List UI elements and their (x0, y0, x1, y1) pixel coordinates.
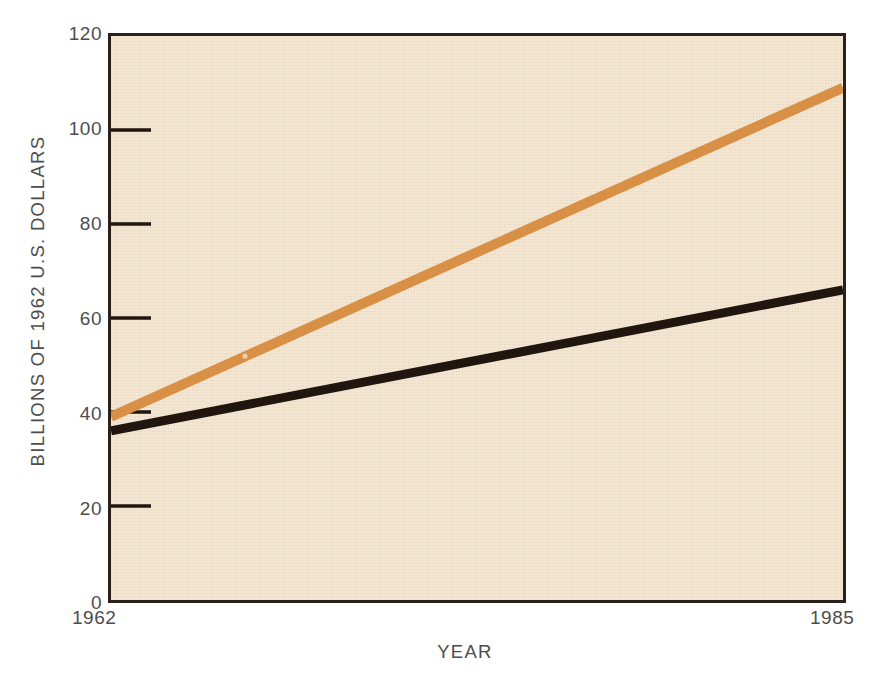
x-tick-label-start: 1962 (72, 608, 116, 627)
plot-canvas (111, 36, 843, 600)
image-speck-artifact (242, 353, 247, 358)
y-tick-label-120: 120 (38, 24, 102, 43)
plot-area (108, 33, 846, 603)
x-axis-title: YEAR (437, 641, 493, 663)
series-line-lower-projection (111, 290, 843, 431)
x-axis-title-wrapper: YEAR (0, 641, 882, 663)
y-axis-tick-marks (111, 130, 151, 506)
series-line-upper-projection (111, 88, 843, 417)
line-chart-figure: 120 100 80 60 40 20 0 BILLIONS OF 1962 U… (0, 0, 882, 676)
x-tick-label-end: 1985 (810, 608, 854, 627)
y-axis-title: BILLIONS OF 1962 U.S. DOLLARS (27, 96, 49, 506)
